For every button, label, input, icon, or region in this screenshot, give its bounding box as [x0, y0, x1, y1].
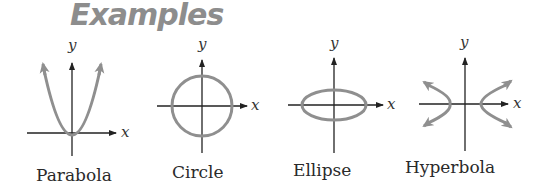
hyperbola-y-label: y [460, 33, 468, 51]
parabola-graph [27, 63, 116, 156]
ellipse-y-label: y [330, 34, 338, 52]
parabola-y-label: y [68, 36, 76, 54]
ellipse-x-label: x [387, 95, 395, 113]
hyperbola-graph [419, 58, 511, 151]
caption-ellipse: Ellipse [293, 160, 351, 180]
caption-hyperbola: Hyperbola [405, 157, 495, 177]
parabola-x-label: x [121, 123, 129, 141]
circle-y-label: y [198, 35, 206, 53]
ellipse-graph [288, 58, 383, 153]
circle-graph [157, 60, 247, 153]
hyperbola-x-label: x [513, 94, 521, 112]
caption-circle: Circle [172, 162, 224, 182]
caption-parabola: Parabola [36, 165, 112, 185]
circle-x-label: x [251, 96, 259, 114]
